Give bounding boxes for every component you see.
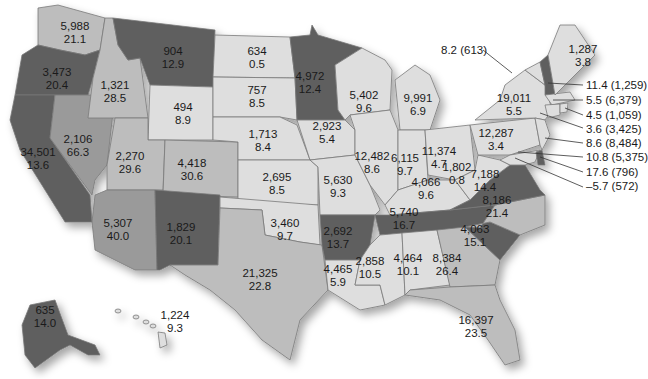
label-ak: 63514.0	[34, 304, 56, 330]
label-ks: 2,6958.5	[263, 171, 292, 197]
label-il: 12,4828.6	[354, 150, 389, 176]
label-sc: 4,06315.1	[461, 223, 490, 249]
state-hi	[115, 309, 167, 348]
label-va: 7,18814.4	[471, 168, 500, 194]
label-pa: 12,2873.4	[478, 127, 513, 153]
label-nc: 8,18621.4	[483, 194, 512, 220]
label-ga: 8,38426.4	[433, 252, 462, 278]
callout-ri: 4.5 (1,059)	[586, 109, 642, 121]
label-ca: 34,50113.6	[20, 146, 55, 172]
label-az: 5,30740.0	[104, 217, 133, 243]
label-ok: 3,4609.7	[271, 217, 300, 243]
callout-md: 10.8 (5,375)	[586, 151, 648, 163]
label-me: 1,2873.8	[569, 43, 598, 69]
label-wv: 1,8020.8	[443, 161, 472, 187]
label-ne: 1,7138.4	[249, 128, 278, 154]
label-nm: 1,82920.1	[167, 221, 196, 247]
label-in: 6,1159.7	[391, 152, 419, 178]
callout-ct: 3.6 (3,425)	[586, 123, 642, 135]
callout-dc: –5.7 (572)	[586, 180, 638, 192]
label-co: 4,41830.6	[178, 157, 207, 183]
label-ut: 2,27029.6	[116, 150, 145, 176]
label-mo: 5,6309.3	[324, 174, 353, 200]
callout-nh: 11.4 (1,259)	[586, 79, 647, 91]
label-ky: 4,0669.6	[412, 176, 441, 202]
label-nd: 6340.5	[247, 45, 266, 71]
state-ri	[560, 103, 568, 113]
label-wi: 5,4029.6	[350, 89, 379, 115]
label-la: 4,4655.9	[324, 263, 353, 289]
label-ms: 2,85810.5	[356, 255, 385, 281]
label-sd: 7578.5	[247, 84, 266, 110]
label-al: 4,46410.1	[394, 252, 423, 278]
label-fl: 16,39723.5	[458, 314, 493, 340]
callout-nj: 8.6 (8,484)	[586, 137, 642, 149]
label-ia: 2,9235.4	[313, 120, 342, 146]
label-tn: 5,74016.7	[390, 206, 419, 232]
label-wa: 5,98821.1	[61, 20, 90, 46]
label-ar: 2,69213.7	[324, 225, 353, 251]
label-hi: 1,2249.3	[161, 309, 190, 335]
label-wy: 4948.9	[173, 101, 192, 127]
label-mt: 90412.9	[162, 45, 184, 71]
callout-de: 17.6 (796)	[586, 166, 638, 178]
label-nv: 2,10666.3	[64, 133, 93, 159]
callout-ma: 5.5 (6,379)	[586, 94, 642, 106]
label-id: 1,32128.5	[101, 79, 130, 105]
label-or: 3,47320.4	[43, 66, 72, 92]
callout-vt: 8.2 (613)	[441, 44, 487, 56]
label-mi: 9,9916.9	[404, 92, 433, 118]
label-mn: 4,97212.4	[296, 70, 325, 96]
label-ny: 19,0115.5	[497, 92, 531, 118]
label-tx: 21,32522.8	[242, 267, 277, 293]
